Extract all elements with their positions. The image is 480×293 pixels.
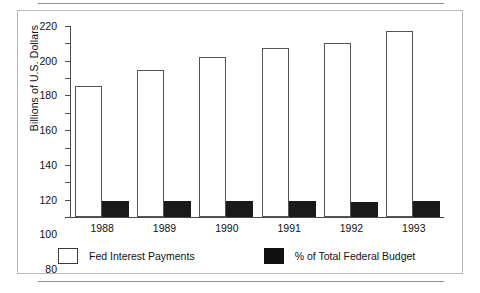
y-axis-tick-label: 200 (39, 55, 57, 66)
bar-solid (289, 201, 316, 217)
legend-swatch-solid-icon (264, 248, 284, 264)
x-axis-label: 1989 (136, 222, 192, 238)
bar-group (386, 26, 440, 217)
y-axis-tick: 20 (65, 200, 70, 201)
x-axis-label: 1993 (386, 222, 442, 238)
bar-open (199, 57, 226, 217)
plot-area: 020406080100120140160180200220 (70, 26, 444, 217)
y-axis-tick-label: 160 (39, 125, 57, 136)
y-axis-tick-label: 120 (39, 194, 57, 205)
y-axis-tick: 120 (65, 113, 70, 114)
bar-solid (102, 201, 129, 217)
bar-open (262, 48, 289, 217)
bar-open (75, 86, 102, 217)
y-axis-tick: 80 (65, 148, 70, 149)
y-axis-tick-label: 220 (39, 21, 57, 32)
y-axis-tick: 160 (65, 78, 70, 79)
bar-group (199, 26, 253, 217)
bar-group (262, 26, 316, 217)
legend-item-fed-interest-payments: Fed Interest Payments (58, 248, 195, 264)
bar-solid (413, 201, 440, 217)
y-axis-tick: 200 (65, 43, 70, 44)
y-axis-tick-label: 140 (39, 160, 57, 171)
bar-open (386, 31, 413, 217)
bar-solid (164, 201, 191, 217)
x-axis-line (70, 217, 444, 218)
bar-open (324, 43, 351, 218)
bar-chart: Billions of U.S. Dollars 020406080100120… (0, 0, 480, 293)
figure-page: Billions of U.S. Dollars 020406080100120… (0, 0, 480, 293)
bar-solid (351, 202, 378, 217)
y-axis-tick: 40 (65, 182, 70, 183)
y-axis-tick: 180 (65, 61, 70, 62)
bar-group (324, 26, 378, 217)
bar-solid (226, 201, 253, 217)
y-axis-tick: 140 (65, 95, 70, 96)
x-axis-label: 1991 (261, 222, 317, 238)
y-axis-tick: 0 (65, 217, 70, 218)
legend-item-percent-total-federal-budget: % of Total Federal Budget (264, 248, 416, 264)
legend-label-fed-interest-payments: Fed Interest Payments (89, 250, 195, 262)
y-axis-tick-label: 100 (39, 229, 57, 240)
x-axis-label: 1992 (323, 222, 379, 238)
chart-legend: Fed Interest Payments % of Total Federal… (58, 248, 415, 264)
bar-groups (71, 26, 444, 217)
legend-swatch-open-icon (58, 248, 78, 264)
bar-group (75, 26, 129, 217)
legend-label-percent-total-federal-budget: % of Total Federal Budget (295, 250, 416, 262)
x-axis-label: 1990 (199, 222, 255, 238)
y-axis-tick: 60 (65, 165, 70, 166)
x-axis-tick-labels: 198819891990199119921993 (71, 222, 445, 238)
y-axis-tick-label: 180 (39, 90, 57, 101)
x-axis-label: 1988 (74, 222, 130, 238)
y-axis-title: Billions of U.S. Dollars (28, 8, 40, 148)
y-axis-tick: 100 (65, 130, 70, 131)
y-axis-tick: 220 (65, 26, 70, 27)
y-axis-tick-label: 80 (45, 264, 57, 275)
bar-group (137, 26, 191, 217)
bar-open (137, 70, 164, 217)
